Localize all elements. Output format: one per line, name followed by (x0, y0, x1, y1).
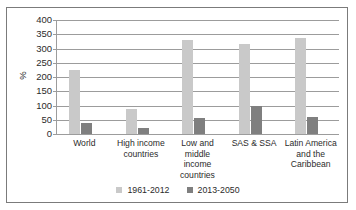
y-axis-title: % (17, 71, 28, 79)
x-axis-category-label: High incomecountries (113, 138, 170, 159)
label-line: countries (169, 170, 226, 181)
x-axis-category-label: Latin Americaand theCaribbean (282, 138, 339, 170)
label-line: income (169, 159, 226, 170)
legend-swatch-icon (116, 187, 122, 193)
y-axis-tick-label: 50 (41, 115, 52, 125)
label-line: countries (113, 149, 170, 160)
x-axis-category-label: World (56, 138, 113, 149)
bar-group (113, 20, 170, 134)
bar (182, 40, 193, 134)
bar-group (169, 20, 226, 134)
legend-swatch-icon (187, 187, 193, 193)
y-axis-tick-mark (53, 134, 56, 135)
bar (239, 44, 250, 134)
bar (126, 109, 137, 134)
y-axis-tick-label: 150 (36, 87, 52, 97)
label-line: SAS & SSA (226, 138, 283, 149)
y-axis-tick-label: 200 (36, 72, 52, 82)
bar (194, 118, 205, 134)
bar (69, 70, 80, 134)
y-axis-tick-label: 300 (36, 44, 52, 54)
bar (81, 123, 92, 134)
y-axis-tick-label: 250 (36, 58, 52, 68)
x-axis-category-labels: WorldHigh incomecountriesLow and middlei… (56, 138, 339, 184)
label-line: World (56, 138, 113, 149)
bar-group (282, 20, 339, 134)
label-line: Latin America (282, 138, 339, 149)
gridline (56, 134, 339, 135)
chart-legend: 1961-20122013-2050 (7, 186, 349, 195)
y-axis-tick-label: 400 (36, 15, 52, 25)
bar (307, 117, 318, 134)
label-line: and the (282, 149, 339, 160)
legend-entry[interactable]: 1961-2012 (116, 186, 169, 195)
y-axis-tick-label: 100 (36, 101, 52, 111)
legend-label: 2013-2050 (198, 186, 240, 195)
bar (295, 38, 306, 134)
x-axis-category-label: Low and middleincomecountries (169, 138, 226, 180)
y-axis-tick-label: 350 (36, 30, 52, 40)
x-axis-category-label: SAS & SSA (226, 138, 283, 149)
legend-entry[interactable]: 2013-2050 (187, 186, 240, 195)
legend-label: 1961-2012 (127, 186, 169, 195)
plot-area: 050100150200250300350400 (56, 20, 339, 134)
y-axis-tick-label: 0 (47, 129, 52, 139)
chart-figure: % 050100150200250300350400 WorldHigh inc… (6, 7, 348, 203)
bar-group (226, 20, 283, 134)
label-line: High income (113, 138, 170, 149)
label-line: Low and middle (169, 138, 226, 159)
bar-group (56, 20, 113, 134)
label-line: Caribbean (282, 159, 339, 170)
bar (138, 128, 149, 134)
bar (251, 106, 262, 135)
